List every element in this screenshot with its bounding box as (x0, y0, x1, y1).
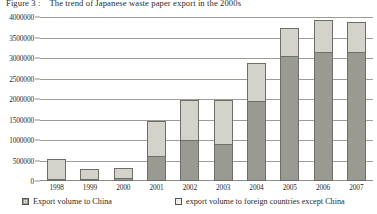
bar-segment-china[interactable] (47, 179, 66, 181)
y-axis-tick-label: 3000000 (9, 54, 34, 63)
y-axis-tick-label: 1500000 (9, 115, 34, 124)
figure-container: Figure 3 :The trend of Japanese waste pa… (0, 0, 377, 214)
y-axis-tick-label: 0 (30, 177, 34, 186)
bar-segment-china[interactable] (247, 101, 266, 181)
bar-group[interactable] (180, 100, 199, 181)
bar-segment-china[interactable] (114, 178, 133, 181)
bar-segment-china[interactable] (180, 140, 199, 181)
bars-layer (40, 17, 373, 181)
chart-legend: Export volume to China export volume to … (0, 197, 377, 211)
y-axis-tick-label: 2500000 (9, 74, 34, 83)
bar-segment-china[interactable] (147, 156, 166, 181)
bar-segment-other[interactable] (147, 121, 166, 158)
figure-caption-text: The trend of Japanese waste paper export… (49, 0, 241, 8)
legend-label-china: Export volume to China (33, 197, 112, 206)
bar-segment-other[interactable] (47, 159, 66, 180)
bar-group[interactable] (314, 20, 333, 181)
figure-caption-number: Figure 3 : (6, 0, 40, 8)
bar-segment-china[interactable] (280, 56, 299, 181)
bar-segment-other[interactable] (314, 20, 333, 53)
bar-segment-other[interactable] (347, 22, 366, 53)
bar-group[interactable] (347, 22, 366, 181)
figure-caption: Figure 3 :The trend of Japanese waste pa… (6, 0, 371, 9)
bar-segment-other[interactable] (247, 63, 266, 102)
bar-segment-other[interactable] (214, 100, 233, 145)
bar-group[interactable] (280, 28, 299, 181)
bar-group[interactable] (214, 100, 233, 181)
bar-segment-china[interactable] (80, 179, 99, 181)
bar-group[interactable] (114, 168, 133, 181)
bar-group[interactable] (147, 121, 166, 181)
bar-segment-other[interactable] (180, 100, 199, 141)
bar-segment-china[interactable] (347, 52, 366, 181)
y-axis-tick-label: 3500000 (9, 33, 34, 42)
bar-group[interactable] (247, 63, 266, 181)
y-axis-tick-label: 1000000 (9, 136, 34, 145)
bar-group[interactable] (47, 159, 66, 181)
legend-label-other: export volume to foreign countries excep… (186, 197, 345, 206)
legend-item-other: export volume to foreign countries excep… (175, 197, 345, 206)
legend-item-china: Export volume to China (22, 197, 112, 206)
legend-swatch-china-icon (22, 198, 29, 205)
y-axis: 0500000100000015000002000000250000030000… (0, 17, 40, 181)
bar-segment-other[interactable] (280, 28, 299, 57)
bar-segment-china[interactable] (314, 52, 333, 181)
bar-segment-china[interactable] (214, 144, 233, 181)
y-axis-tick-label: 500000 (13, 156, 34, 165)
legend-swatch-other-icon (175, 198, 182, 205)
bar-group[interactable] (80, 169, 99, 181)
x-axis: 1998199920002001200220032004200520062007 (40, 183, 373, 195)
x-axis-tick-label: 2007 (336, 183, 376, 192)
y-axis-tick-label: 4000000 (9, 13, 34, 22)
y-axis-tick-label: 2000000 (9, 95, 34, 104)
